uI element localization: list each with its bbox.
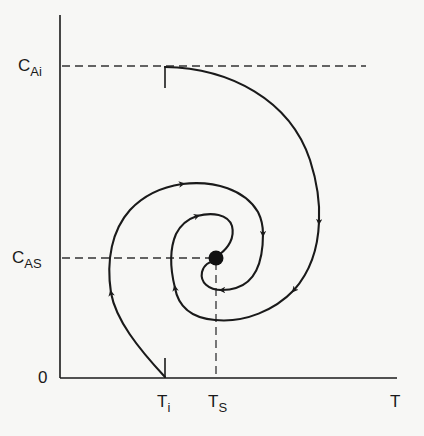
x-label-t-i-main: T [157, 392, 167, 411]
trajectory-1 [165, 67, 319, 320]
y-label-c-as-main: C [12, 248, 24, 267]
y-label-c-ai-sub: Ai [30, 64, 42, 79]
trajectory-2 [109, 183, 263, 377]
y-label-c-as-sub: AS [24, 256, 41, 271]
steady-state-point [209, 251, 224, 266]
y-label-c-as: CAS [12, 249, 42, 270]
x-axis-label: T [390, 393, 400, 410]
x-label-t-s-sub: S [218, 400, 227, 415]
phase-plane-diagram [0, 0, 424, 436]
y-label-c-ai: CAi [18, 57, 42, 78]
x-label-t-i-sub: i [167, 400, 170, 415]
x-label-t-s: TS [208, 393, 227, 414]
x-label-t-i: Ti [157, 393, 170, 414]
origin-label: 0 [38, 369, 47, 386]
x-label-t-s-main: T [208, 392, 218, 411]
y-label-c-ai-main: C [18, 56, 30, 75]
